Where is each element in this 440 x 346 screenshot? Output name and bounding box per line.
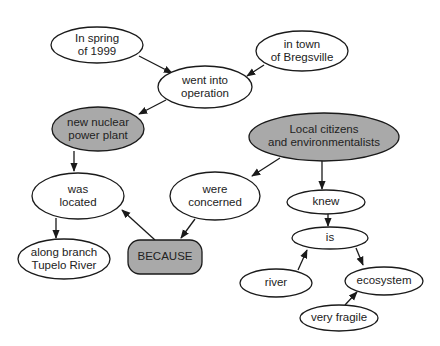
node-is: is <box>292 227 368 249</box>
edge-spring-to-operation <box>139 56 172 73</box>
node-spring-line-2: of 1999 <box>78 45 116 57</box>
edge-because-to-located <box>122 210 155 240</box>
node-town-line-1: in town <box>284 38 320 50</box>
node-citizens: Local citizens and environmentalists <box>249 113 399 161</box>
concept-map: In spring of 1999 in town of Bregsville … <box>0 0 440 346</box>
node-plant-line-2: power plant <box>68 129 128 141</box>
node-citizens-line-1: Local citizens <box>289 123 358 135</box>
edge-operation-to-plant <box>139 100 166 114</box>
node-ecosystem: ecosystem <box>345 267 423 295</box>
edge-citizens-to-concerned <box>252 158 280 176</box>
node-river-branch: along branch Tupelo River <box>18 239 110 279</box>
node-concerned-line-2: concerned <box>188 196 242 208</box>
node-citizens-line-2: and environmentalists <box>268 136 380 148</box>
node-concerned: were concerned <box>170 172 260 220</box>
node-town: in town of Bregsville <box>256 31 348 71</box>
node-knew-label: knew <box>313 195 341 207</box>
node-spring: In spring of 1999 <box>51 27 143 63</box>
node-ecosystem-label: ecosystem <box>357 274 412 286</box>
node-concerned-line-1: were <box>202 183 228 195</box>
node-located: was located <box>32 173 124 219</box>
node-is-label: is <box>326 231 335 243</box>
node-river-branch-line-2: Tupelo River <box>32 259 97 271</box>
node-plant: new nuclear power plant <box>52 107 144 151</box>
node-located-line-1: was <box>67 183 89 195</box>
node-operation-line-2: operation <box>181 87 229 99</box>
edge-fragile-to-ecosystem <box>345 292 357 305</box>
node-river-branch-line-1: along branch <box>31 246 98 258</box>
node-knew: knew <box>287 190 365 214</box>
node-plant-line-1: new nuclear <box>67 116 129 128</box>
node-because: BECAUSE <box>128 240 202 274</box>
node-operation: went into operation <box>158 66 252 108</box>
node-spring-line-1: In spring <box>75 32 119 44</box>
node-because-label: BECAUSE <box>138 250 193 262</box>
edge-town-to-operation <box>247 65 264 76</box>
node-town-line-2: of Bregsville <box>271 51 334 63</box>
edge-concerned-to-because <box>181 219 195 238</box>
node-river: river <box>240 269 312 297</box>
node-operation-line-1: went into <box>181 74 228 86</box>
edge-is-to-ecosystem <box>356 248 363 265</box>
edge-river-to-is <box>298 250 307 270</box>
node-located-line-2: located <box>59 196 96 208</box>
node-fragile-label: very fragile <box>311 311 367 323</box>
node-river-label: river <box>265 276 288 288</box>
node-fragile: very fragile <box>300 305 378 331</box>
